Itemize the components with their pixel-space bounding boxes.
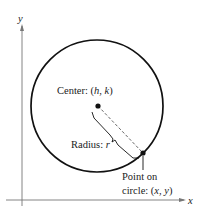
point-label-line2: circle: (x, y) [122,185,173,197]
x-axis-label: x [187,195,193,206]
x-axis-arrow-icon [179,198,186,202]
circle-diagram: y x Center: (h, k) Radius: r Point on ci… [0,0,202,222]
point-on-circle [140,150,145,155]
y-axis-label: y [17,13,23,24]
radius-brace [92,112,139,158]
center-point [95,103,100,108]
center-label: Center: (h, k) [57,85,113,97]
radius-label: Radius: r [71,139,111,150]
y-axis-arrow-icon [20,24,24,31]
point-label-line1: Point on [122,171,158,182]
